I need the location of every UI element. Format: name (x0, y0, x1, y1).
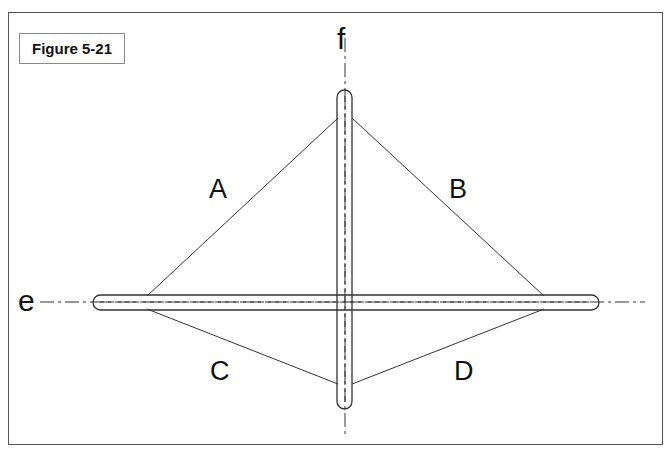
brace-line-a (147, 118, 338, 296)
segment-label-c: C (210, 358, 230, 385)
brace-line-b (352, 118, 544, 296)
kite-structure-diagram (0, 0, 670, 457)
segment-label-d: D (454, 358, 474, 385)
segment-label-b: B (449, 176, 467, 203)
brace-line-c (147, 309, 338, 384)
axis-label-e: e (18, 286, 35, 316)
brace-line-d (352, 309, 544, 384)
segment-label-a: A (209, 176, 227, 203)
axis-label-f: f (337, 24, 345, 54)
